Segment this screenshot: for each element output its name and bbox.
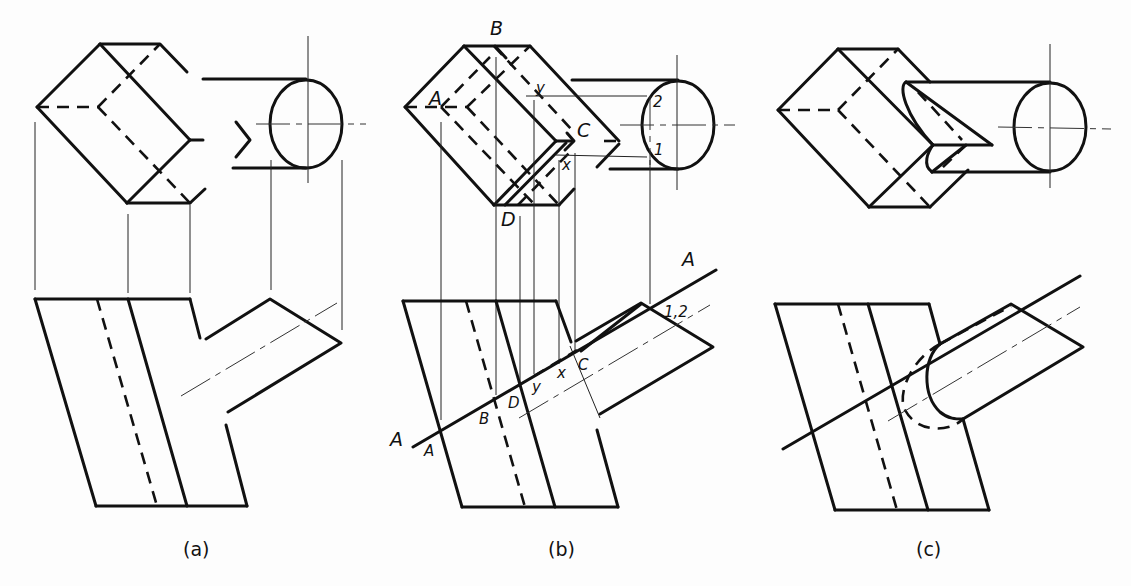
label-front-1-2: 1,2 <box>664 303 688 321</box>
label-top-D: D <box>501 208 516 230</box>
label-front-y: y <box>531 378 542 396</box>
cutting-plane-A-A <box>413 270 716 447</box>
caption-b: (b) <box>548 538 575 560</box>
caption-a: (a) <box>183 538 209 560</box>
label-top-y: y <box>535 79 546 97</box>
label-front-x: x <box>556 364 566 382</box>
label-top-2: 2 <box>653 93 663 111</box>
panel-a: (a) <box>35 36 366 560</box>
label-front-B: B <box>479 410 489 428</box>
label-front-A: A <box>423 442 434 460</box>
label-front-C: C <box>578 356 589 374</box>
panel-c-top-view <box>778 44 1111 207</box>
label-top-C: C <box>577 119 591 141</box>
label-top-x: x <box>561 156 571 174</box>
panel-b: B A C D y x 2 1 <box>388 17 735 560</box>
label-plane-A-left: A <box>388 428 403 450</box>
label-top-A: A <box>427 87 442 109</box>
label-front-D: D <box>508 394 520 412</box>
label-top-B: B <box>490 17 503 39</box>
panel-c-front-view: (c) <box>775 276 1083 560</box>
technical-drawing: (a) <box>0 0 1131 586</box>
panel-c: (c) <box>775 44 1111 560</box>
caption-c: (c) <box>916 538 941 560</box>
panel-a-top-view-prism <box>37 44 205 203</box>
label-plane-A-right: A <box>680 248 695 270</box>
label-top-1: 1 <box>654 141 664 159</box>
panel-a-front-view: (a) <box>35 299 341 560</box>
